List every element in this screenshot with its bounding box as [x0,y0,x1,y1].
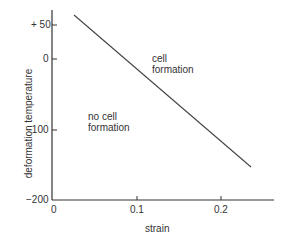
annotation-cell-line1: cell [152,53,167,64]
annotation-cell-line2: formation [152,64,194,75]
y-axis-label: deformation temperature [23,64,34,184]
annotation-nocell-line1: no cell [88,111,117,122]
boundary-line [74,15,251,167]
x-tick-label-0.2: 0.2 [214,204,228,215]
y-tick-label-0: 0 [43,53,49,64]
annotation-nocell-line2: formation [88,122,130,133]
y-tick-label-minus200: −200 [26,194,49,205]
x-tick-label-0: 0 [51,204,57,215]
x-axis-label: strain [145,223,169,234]
y-tick-label-50: + 50 [31,19,51,30]
x-tick-label-0.1: 0.1 [130,204,144,215]
